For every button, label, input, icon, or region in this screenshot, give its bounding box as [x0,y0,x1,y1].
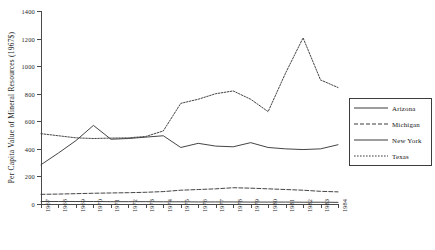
x-tick [268,204,269,208]
series-line-texas [41,38,338,139]
chart-legend: ArizonaMichiganNew YorkTexas [349,98,432,166]
series-line-new-york [41,202,338,203]
series-line-michigan [41,188,338,195]
legend-item-arizona[interactable]: Arizona [350,100,431,116]
y-tick-label: 1200 [21,35,35,42]
y-axis-title-text: Per Capita Value of Mineral Resources (1… [8,32,17,184]
x-tick [216,204,217,208]
legend-label: Michigan [392,121,420,128]
legend-swatch-arizona [354,103,388,113]
y-tick-label: 200 [25,173,35,180]
legend-label: Arizona [392,105,416,112]
legend-item-texas[interactable]: Texas [350,148,431,164]
y-axis-title: Per Capita Value of Mineral Resources (1… [6,11,18,204]
x-tick [163,204,164,208]
x-tick [41,204,42,208]
x-tick [128,204,129,208]
legend-item-michigan[interactable]: Michigan [350,116,431,132]
x-tick [146,204,147,208]
x-tick-label: 1984 [341,199,348,212]
x-tick [233,204,234,208]
series-line-arizona [41,125,338,164]
legend-label: Texas [392,153,409,160]
x-tick [93,204,94,208]
x-tick [251,204,252,208]
series-lines [41,11,338,204]
y-tick-label: 400 [25,145,35,152]
y-tick-label: 1400 [21,8,35,15]
y-tick-label: 600 [25,118,35,125]
x-tick [198,204,199,208]
legend-item-new-york[interactable]: New York [350,132,431,148]
y-tick-label: 1000 [21,63,35,70]
x-tick [338,204,339,208]
plot-area: 0200400600800100012001400 19671968196919… [41,11,338,204]
x-tick [58,204,59,208]
x-tick [321,204,322,208]
legend-label: New York [392,137,422,144]
x-tick [286,204,287,208]
x-tick [181,204,182,208]
legend-swatch-new-york [354,135,388,145]
x-tick [303,204,304,208]
legend-swatch-texas [354,151,388,161]
y-tick-label: 800 [25,90,35,97]
chart-figure: Per Capita Value of Mineral Resources (1… [0,0,435,250]
x-tick [76,204,77,208]
y-tick-label: 0 [32,201,35,208]
x-tick [111,204,112,208]
legend-swatch-michigan [354,119,388,129]
